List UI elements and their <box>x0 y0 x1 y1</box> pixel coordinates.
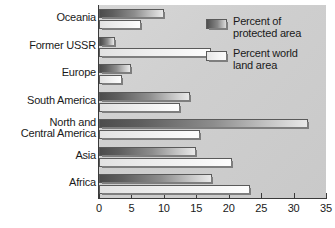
legend-swatch-protected-area <box>206 19 227 29</box>
chart-screenshot: 05101520253035 OceaniaFormer USSREuropeS… <box>0 0 335 228</box>
legend-item-world-land-area: Percent world land area <box>206 48 330 71</box>
tick-label-10: 10 <box>158 202 170 214</box>
tick-mark-35 <box>326 193 327 199</box>
legend-swatch-world-land-area <box>206 51 227 61</box>
category-label-africa: Africa <box>69 177 96 189</box>
category-label-south-america: South America <box>27 95 96 107</box>
bar-world-land-area <box>99 75 122 84</box>
category-label-north-and-central-america: North and Central America <box>21 117 96 140</box>
bar-protected-area <box>99 37 115 46</box>
legend-item-protected-area: Percent of protected area <box>206 16 330 39</box>
category-label-oceania: Oceania <box>56 12 96 24</box>
bar-protected-area <box>99 64 131 73</box>
tick-label-35: 35 <box>320 202 332 214</box>
bar-world-land-area <box>99 158 232 167</box>
tick-label-20: 20 <box>223 202 235 214</box>
tick-label-5: 5 <box>128 202 134 214</box>
bar-protected-area <box>99 92 190 101</box>
legend-label-world-land-area: Percent world land area <box>233 48 298 71</box>
bar-world-land-area <box>99 185 250 194</box>
category-label-asia: Asia <box>75 150 96 162</box>
tick-mark-25 <box>261 193 262 199</box>
bar-protected-area <box>99 174 212 183</box>
tick-label-0: 0 <box>96 202 102 214</box>
tick-label-30: 30 <box>288 202 300 214</box>
bar-world-land-area <box>99 48 211 57</box>
tick-label-15: 15 <box>190 202 202 214</box>
bar-world-land-area <box>99 103 180 112</box>
legend-label-protected-area: Percent of protected area <box>233 16 301 39</box>
category-label-former-ussr: Former USSR <box>29 40 96 52</box>
category-label-europe: Europe <box>62 67 96 79</box>
chart-legend: Percent of protected area Percent world … <box>206 16 330 80</box>
bar-protected-area <box>99 147 196 156</box>
bar-world-land-area <box>99 20 141 29</box>
tick-mark-30 <box>294 193 295 199</box>
bar-protected-area <box>99 119 308 128</box>
bar-protected-area <box>99 9 164 18</box>
tick-label-25: 25 <box>255 202 267 214</box>
bar-world-land-area <box>99 130 200 139</box>
